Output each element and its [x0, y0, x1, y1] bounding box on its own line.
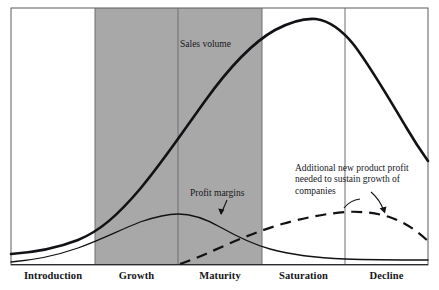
profit-margins-label: Profit margins: [190, 188, 244, 198]
stage-label-growth: Growth: [95, 270, 178, 281]
stage-label-decline: Decline: [345, 270, 428, 281]
stage-label-introduction: Introduction: [11, 270, 95, 281]
sales-volume-label: Sales volume: [180, 39, 231, 49]
stage-label-saturation: Saturation: [262, 270, 345, 281]
stage-label-maturity: Maturity: [178, 270, 262, 281]
additional-profit-note-curl: [344, 199, 360, 208]
product-life-cycle-figure: Sales volume Profit margins Additional n…: [0, 0, 439, 290]
additional-profit-annotation: Additional new product profit needed to …: [295, 163, 437, 197]
additional-profit-note-arrowhead: [380, 207, 387, 214]
